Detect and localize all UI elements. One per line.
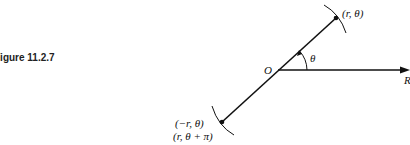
point-bottom-label-1: (−r, θ) (175, 117, 204, 130)
point-top-label: (r, θ) (342, 7, 364, 20)
axis-label: R (403, 74, 410, 86)
polar-diagram: O R θ (r, θ) (−r, θ) (r, θ + π) (0, 0, 410, 145)
point-bottom-label-2: (r, θ + π) (173, 130, 213, 143)
angle-label: θ (310, 52, 316, 64)
bottom-point (220, 120, 225, 125)
arrowhead-icon (400, 67, 410, 74)
top-point (334, 16, 339, 21)
origin-label: O (264, 64, 272, 76)
